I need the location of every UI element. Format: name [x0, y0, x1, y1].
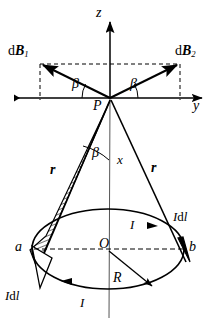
z-axis-label: z [96, 6, 101, 20]
radius-label: R [113, 271, 122, 285]
dB2-subscript: 2 [191, 49, 195, 59]
current-direction-arrow-right [147, 222, 158, 229]
r-right-label: r [151, 161, 156, 175]
r-left-label: r [50, 163, 55, 177]
dB2-vector [110, 65, 177, 98]
dB2-differential: d [175, 43, 182, 58]
point-P-label: P [93, 99, 102, 113]
beta-right-label: β [130, 77, 137, 91]
beta-left-label: β [72, 77, 79, 91]
dB2-label: dB2 [175, 44, 196, 59]
current-label-right: I [130, 218, 134, 231]
dB1-subscript: 1 [24, 49, 28, 59]
dB1-label: dB1 [8, 44, 29, 59]
slant-line-right-r [111, 100, 186, 262]
hatched-radial-band [30, 101, 110, 268]
beta-angle-arc-left [82, 84, 86, 98]
idl-left-length: l [16, 288, 20, 303]
dB1-symbol: B [15, 43, 24, 58]
physics-diagram-canvas: z y x P O dB1 dB2 β β β r r a b Idl Idl … [0, 0, 210, 326]
beta-axis-label: β [92, 146, 99, 160]
center-O-label: O [99, 237, 109, 251]
point-b-label: b [189, 240, 196, 254]
idl-right-length: l [184, 209, 188, 224]
current-element-right-label: Idl [173, 210, 187, 223]
dB2-symbol: B [182, 43, 191, 58]
cone-axis-line [109, 98, 110, 318]
current-element-left-label: Idl [5, 289, 19, 302]
y-axis-label: y [193, 99, 199, 113]
current-direction-arrow-left [61, 278, 72, 285]
point-a-label: a [15, 240, 22, 254]
dB1-differential: d [8, 43, 15, 58]
current-label-left: I [80, 296, 84, 309]
current-element-left-arrow [32, 246, 52, 288]
y-axis-left-tick [14, 94, 20, 101]
x-axis-label: x [117, 153, 123, 166]
